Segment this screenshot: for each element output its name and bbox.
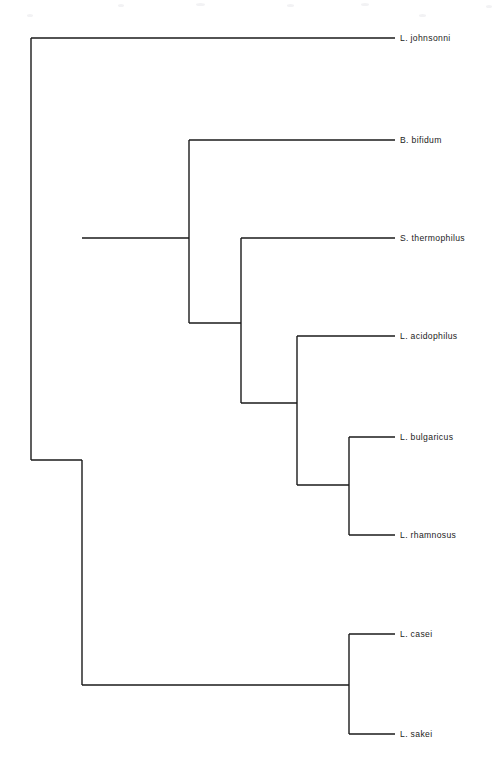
leaf-branches: [31, 38, 395, 734]
dendrogram-canvas: [0, 0, 494, 779]
node-connectors: [31, 38, 349, 734]
leaf-label-l-casei: L. casei: [400, 630, 432, 639]
dendrogram-figure: L. johnsonni B. bifidum S. thermophilus …: [0, 0, 494, 779]
leaf-label-l-bulgaricus: L. bulgaricus: [400, 433, 453, 442]
internal-branches: [31, 238, 349, 685]
leaf-label-l-rhamnosus: L. rhamnosus: [400, 531, 456, 540]
leaf-label-l-johnsonni: L. johnsonni: [400, 34, 451, 43]
leaf-label-s-thermophilus: S. thermophilus: [400, 234, 465, 243]
leaf-label-l-sakei: L. sakei: [400, 730, 432, 739]
leaf-label-b-bifidum: B. bifidum: [400, 136, 442, 145]
leaf-label-l-acidophilus: L. acidophilus: [400, 332, 457, 341]
